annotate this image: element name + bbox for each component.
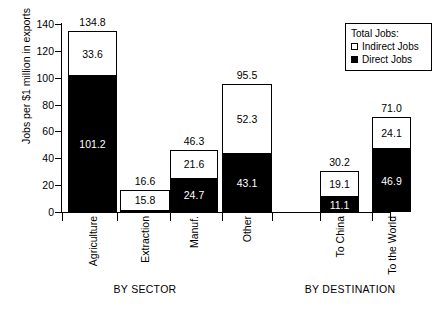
y-axis-tick <box>55 24 62 25</box>
bar-segment-direct: 43.1 <box>222 154 272 212</box>
chart-canvas: 140120100806040200 Jobs per $1 million i… <box>0 0 440 310</box>
bar-extraction[interactable]: 15.816.6 <box>120 190 170 212</box>
bar-segment-direct: 24.7 <box>170 179 218 212</box>
bar-segment-direct: 46.9 <box>372 149 411 212</box>
legend-item-direct-jobs: Direct Jobs <box>351 53 427 66</box>
x-axis-tick <box>372 212 373 221</box>
x-axis-tick <box>170 212 171 221</box>
y-axis-tick <box>55 131 62 132</box>
bar-segment-direct: 101.2 <box>68 76 117 212</box>
bar-to-the-world[interactable]: 46.924.171.0 <box>372 117 411 212</box>
x-axis-tick <box>272 212 273 221</box>
bar-to-china[interactable]: 11.119.130.2 <box>320 171 359 212</box>
bar-segment-direct: 11.1 <box>320 197 359 212</box>
y-axis-tick <box>55 105 62 106</box>
x-axis-category-label: Agriculture <box>87 216 99 266</box>
y-axis-label: Jobs per $1 million in exports <box>20 0 32 176</box>
legend-item-label: Indirect Jobs <box>362 40 419 53</box>
x-axis-line <box>61 212 391 213</box>
x-axis-category-label: Other <box>241 216 253 242</box>
x-axis-tick <box>62 212 63 221</box>
x-axis-category-label: Extraction <box>139 216 151 263</box>
y-axis-tick <box>55 78 62 79</box>
legend-title: Total Jobs: <box>351 27 427 40</box>
group-label-by-sector: BY SECTOR <box>114 283 177 295</box>
legend: Total Jobs: Indirect Jobs Direct Jobs <box>345 23 432 71</box>
y-axis-tick <box>55 158 62 159</box>
bar-total-label: 95.5 <box>237 69 257 81</box>
bar-segment-indirect: 21.6 <box>170 150 218 179</box>
legend-item-label: Direct Jobs <box>362 53 412 66</box>
bar-segment-indirect: 24.1 <box>372 117 411 149</box>
bar-manuf[interactable]: 24.721.646.3 <box>170 150 218 212</box>
bar-segment-indirect: 15.8 <box>120 190 170 211</box>
y-axis-tick-label: 0 <box>24 207 54 217</box>
bar-total-label: 134.8 <box>79 16 105 28</box>
x-axis-tick <box>320 212 321 221</box>
x-axis-tick <box>390 212 391 221</box>
bar-total-label: 16.6 <box>135 175 155 187</box>
legend-item-indirect-jobs: Indirect Jobs <box>351 40 427 53</box>
bar-total-label: 30.2 <box>329 156 349 168</box>
y-axis-tick <box>55 185 62 186</box>
y-axis-tick <box>55 212 62 213</box>
group-label-by-destination: BY DESTINATION <box>305 283 396 295</box>
x-axis-tick <box>117 212 118 221</box>
bar-segment-indirect: 52.3 <box>222 84 272 154</box>
plot-area: 101.233.6134.815.816.624.721.646.343.152… <box>62 24 390 212</box>
open-square-icon <box>351 43 358 50</box>
bar-other[interactable]: 43.152.395.5 <box>222 84 272 212</box>
filled-square-icon <box>351 56 358 63</box>
bar-total-label: 46.3 <box>184 135 204 147</box>
x-axis-category-label: Manuf. <box>188 216 200 248</box>
y-axis-tick-label: 20 <box>24 180 54 190</box>
bar-segment-indirect: 33.6 <box>68 31 117 76</box>
bar-total-label: 71.0 <box>381 102 401 114</box>
x-axis-tick <box>222 212 223 221</box>
x-axis-category-label: To China <box>334 216 346 257</box>
bar-segment-indirect: 19.1 <box>320 171 359 197</box>
x-axis-category-label: To the World <box>386 216 398 275</box>
y-axis-tick <box>55 51 62 52</box>
bar-agriculture[interactable]: 101.233.6134.8 <box>68 31 117 212</box>
